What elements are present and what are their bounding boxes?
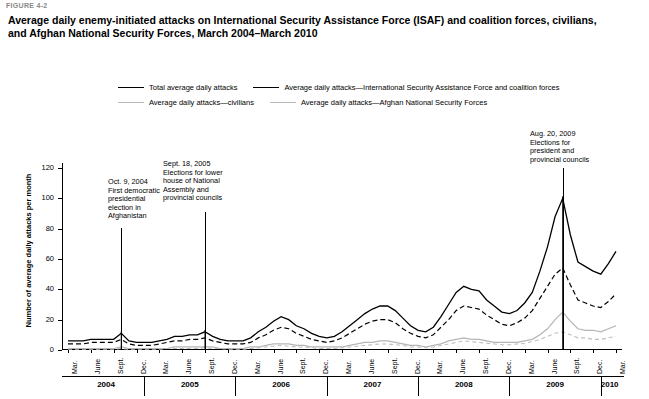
y-tick-label: 20: [32, 315, 54, 324]
x-tick-label: Dec.: [505, 360, 512, 374]
x-tick-label: Dec.: [140, 360, 147, 374]
x-tick-label: Sept.: [117, 358, 124, 374]
annotation-leader-line: [121, 228, 122, 350]
figure-label: FIGURE 4-2: [6, 2, 48, 9]
year-label: 2004: [68, 380, 144, 389]
legend-row-2: Average daily attacks—civilians Average …: [118, 95, 638, 110]
legend-item-civilians: Average daily attacks—civilians: [118, 98, 254, 107]
x-tick-label: Mar.: [71, 360, 78, 374]
y-tick-label: 0: [32, 345, 54, 354]
x-tick-label: Mar.: [254, 360, 261, 374]
legend-label-ansf: Average daily attacks—Afghan National Se…: [301, 98, 487, 107]
year-band: 2004200520062007200820092010: [62, 376, 624, 396]
legend-label-isaf: Average daily attacks—International Secu…: [284, 83, 559, 92]
y-tick-label: 80: [32, 224, 54, 233]
y-tick-label: 120: [32, 163, 54, 172]
legend-item-ansf: Average daily attacks—Afghan National Se…: [270, 98, 487, 107]
annotation-aug-2009: Aug. 20, 2009Elections forpresident andp…: [530, 130, 630, 164]
year-separator: [601, 376, 602, 396]
year-label: 2006: [235, 380, 326, 389]
year-separator: [327, 376, 328, 396]
legend-row-1: Total average daily attacks Average dail…: [118, 80, 638, 95]
annotation-line: provincial councils: [530, 156, 630, 165]
year-separator: [509, 376, 510, 396]
legend-item-total: Total average daily attacks: [118, 83, 237, 92]
x-tick-label: June: [551, 359, 558, 374]
year-label: 2007: [327, 380, 418, 389]
year-label: 2010: [601, 380, 616, 389]
chart-legend: Total average daily attacks Average dail…: [118, 80, 638, 114]
legend-swatch-ansf-icon: [270, 98, 296, 107]
figure-title: Average daily enemy-initiated attacks on…: [8, 14, 608, 40]
x-tick-label: Sept.: [299, 358, 306, 374]
y-axis-title: Number of average daily attacks per mont…: [14, 168, 28, 343]
x-tick-label: June: [277, 359, 284, 374]
x-tick-label: Sept.: [482, 358, 489, 374]
y-tick-label: 100: [32, 193, 54, 202]
annotation-line: Afghanistan: [108, 212, 188, 221]
year-label: 2008: [418, 380, 509, 389]
x-tick-label: Mar.: [345, 360, 352, 374]
year-separator: [418, 376, 419, 396]
legend-label-total: Total average daily attacks: [149, 83, 237, 92]
annotation-leader-line: [205, 212, 206, 350]
year-band-top-rule: [62, 376, 624, 377]
x-tick-label: Sept.: [208, 358, 215, 374]
x-tick-label: June: [459, 359, 466, 374]
x-tick-label: Dec.: [231, 360, 238, 374]
annotation-sept-2005: Sept. 18, 2005Elections for lowerhouse o…: [163, 160, 249, 203]
x-tick-label: Mar.: [436, 360, 443, 374]
legend-swatch-isaf-icon: [253, 83, 279, 92]
x-tick-label: Mar.: [162, 360, 169, 374]
year-separator: [235, 376, 236, 396]
annotation-line: provincial councils: [163, 194, 249, 203]
x-tick-label: Mar.: [619, 360, 626, 374]
legend-swatch-total-icon: [118, 83, 144, 92]
figure-page: FIGURE 4-2 Average daily enemy-initiated…: [0, 0, 649, 399]
year-label: 2005: [144, 380, 235, 389]
x-tick-label: June: [185, 359, 192, 374]
x-tick-label: Dec.: [596, 360, 603, 374]
legend-swatch-civilians-icon: [118, 98, 144, 107]
x-tick-label: Mar.: [528, 360, 535, 374]
x-tick-label: Sept.: [391, 358, 398, 374]
series-line: [68, 268, 616, 345]
x-axis-labels: Mar.JuneSept.Dec.Mar.JuneSept.Dec.Mar.Ju…: [62, 352, 624, 374]
year-label: 2009: [509, 380, 600, 389]
y-tick-label: 40: [32, 284, 54, 293]
x-tick-label: June: [368, 359, 375, 374]
x-tick-label: Dec.: [322, 360, 329, 374]
legend-item-isaf: Average daily attacks—International Secu…: [253, 83, 559, 92]
x-tick-label: Dec.: [414, 360, 421, 374]
y-axis-title-text: Number of average daily attacks per mont…: [24, 165, 33, 337]
y-tick-label: 60: [32, 254, 54, 263]
x-tick-label: June: [94, 359, 101, 374]
legend-label-civilians: Average daily attacks—civilians: [149, 98, 254, 107]
year-separator: [144, 376, 145, 396]
x-tick-label: Sept.: [573, 358, 580, 374]
annotation-leader-line: [563, 168, 564, 350]
